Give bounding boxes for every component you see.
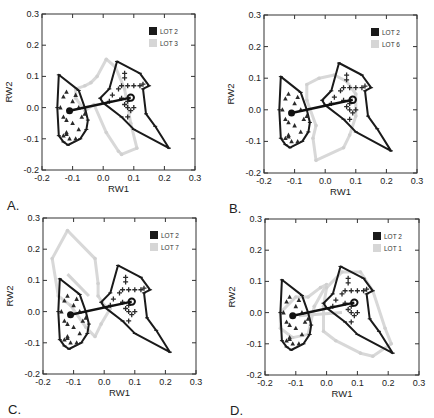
cross-marker [352,313,357,318]
triangle-marker [284,319,289,323]
x-tick-label: 0.2 [382,378,395,388]
cross-marker [349,310,354,315]
y-tick-label: 0.3 [249,214,262,224]
cross-marker [346,276,351,281]
y-axis-title: RW2 [226,287,237,308]
triangle-marker [294,326,299,330]
y-tick-label: 0.2 [249,245,262,255]
panel-d: -0.2-0.10.00.10.20.30.30.20.10.0-0.1-0.2… [0,0,434,418]
y-tick-label: -0.1 [246,339,262,349]
axes-frame [265,219,419,375]
cross-marker [340,291,345,296]
y-tick-label: 0.1 [249,276,262,286]
x-axis-title: RW1 [332,388,353,399]
x-tick-label: 0.0 [320,378,333,388]
triangle-marker [297,341,302,345]
cross-marker [349,288,354,293]
legend: LOT 2LOT 1 [373,232,402,252]
panel-letter: D. [230,403,243,418]
right-mean-marker [351,299,357,305]
cross-marker [355,310,360,315]
triangle-marker [294,304,299,308]
x-tick-label: 0.1 [351,378,364,388]
cross-marker [333,298,338,303]
x-tick-label: -0.1 [288,378,304,388]
cross-marker [343,288,348,293]
legend-swatch [373,244,381,252]
y-tick-label: -0.2 [246,370,262,380]
legend-label: LOT 1 [384,245,402,252]
left-mean-marker [289,312,296,319]
x-tick-label: 0.3 [413,378,426,388]
legend-swatch [373,232,381,240]
legend-label: LOT 2 [384,233,402,240]
triangle-marker [284,299,289,303]
y-tick-label: 0.0 [249,308,262,318]
cross-marker [346,280,351,285]
triangle-marker [290,341,295,345]
triangle-marker [287,295,292,299]
cross-marker [349,319,354,324]
cross-marker [355,288,360,293]
cross-marker [346,307,351,312]
